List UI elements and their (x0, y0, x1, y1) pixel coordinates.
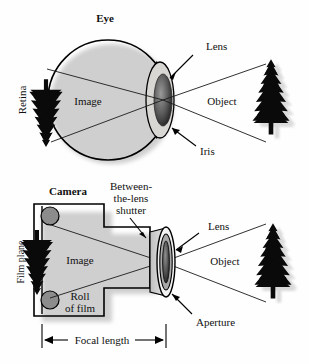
lens-aperture-opening (163, 241, 170, 283)
eye-object-label: Object (207, 95, 236, 107)
iris-leader-arrowhead (172, 128, 180, 135)
focal-length-arrowhead-right (155, 336, 164, 344)
film-spool-bottom (41, 291, 59, 309)
shutter-label-line2: the-lens (114, 192, 149, 204)
shutter-label-line1: Between- (110, 180, 152, 192)
roll-of-film-label-line1: Roll (71, 290, 90, 302)
focal-length-arrowhead-left (44, 336, 53, 344)
figure-canvas: Eye Retina Image Lens Iris Object (0, 0, 310, 364)
camera-title: Camera (49, 185, 87, 197)
aperture-label: Aperture (196, 316, 235, 328)
camera-image-label: Image (66, 254, 94, 266)
shutter-label-line3: shutter (116, 204, 146, 216)
roll-of-film-label-line2: of film (65, 302, 96, 314)
film-spool-top (41, 207, 59, 225)
eye-image-label: Image (74, 95, 102, 107)
eye-panel: Eye Retina Image Lens Iris Object (16, 12, 296, 164)
camera-lens-label: Lens (208, 220, 229, 232)
optics-figure: Eye Retina Image Lens Iris Object (0, 0, 310, 364)
camera-panel: Camera Film plane Image Roll of film Bet… (15, 180, 298, 348)
camera-lens-leader-line (176, 233, 199, 250)
eye-lens-label: Lens (206, 40, 227, 52)
eye-title: Eye (96, 12, 114, 24)
eye-iris-label: Iris (200, 145, 215, 157)
focal-length-label: Focal length (75, 334, 130, 346)
retina-label: Retina (16, 86, 28, 115)
aperture-leader-arrowhead (172, 294, 180, 301)
film-plane-label: Film plane (15, 240, 26, 284)
camera-object-label: Object (210, 255, 239, 267)
